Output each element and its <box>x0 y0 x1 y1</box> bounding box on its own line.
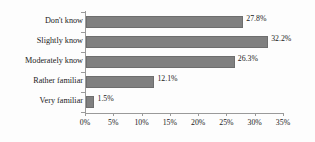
bar <box>86 76 154 88</box>
bar-value-label: 1.5% <box>97 93 113 104</box>
bar <box>86 96 94 108</box>
bar-value-label: 27.8% <box>246 13 266 24</box>
category-label: Slightly know <box>0 35 83 46</box>
x-axis-tick <box>283 113 284 116</box>
x-axis-tick <box>170 113 171 116</box>
y-axis-tick <box>81 52 85 53</box>
bar-wrapper <box>86 76 154 88</box>
bar-wrapper <box>86 96 94 108</box>
category-label: Don't know <box>0 15 83 26</box>
bar-wrapper <box>86 56 235 68</box>
x-axis-tick <box>198 113 199 116</box>
bar-row: Moderately know 26.3% <box>0 52 315 72</box>
category-label: Rather familiar <box>0 75 83 86</box>
y-axis-tick <box>81 32 85 33</box>
category-label: Moderately know <box>0 55 83 66</box>
bar-value-label: 12.1% <box>157 73 177 84</box>
bar <box>86 16 243 28</box>
bar-wrapper <box>86 36 268 48</box>
x-axis-tick-label: 35% <box>276 118 290 127</box>
x-axis-tick-label: 30% <box>248 118 262 127</box>
x-axis-tick-label: 0% <box>80 118 90 127</box>
x-axis-tick <box>226 113 227 116</box>
bar-value-label: 26.3% <box>238 53 258 64</box>
y-axis-tick <box>81 12 85 13</box>
bar-value-label: 32.2% <box>271 33 291 44</box>
category-rows: Don't know 27.8% Slightly know 32.2% Mod… <box>0 12 315 112</box>
y-axis-tick <box>81 92 85 93</box>
x-axis-tick <box>142 113 143 116</box>
bar-chart: Don't know 27.8% Slightly know 32.2% Mod… <box>0 0 315 142</box>
bar-row: Don't know 27.8% <box>0 12 315 32</box>
bar <box>86 56 235 68</box>
x-axis-tick-label: 15% <box>163 118 177 127</box>
x-axis-tick-label: 20% <box>191 118 205 127</box>
x-axis-tick-label: 10% <box>134 118 148 127</box>
x-axis-tick <box>113 113 114 116</box>
y-axis-tick <box>81 72 85 73</box>
x-axis-ticks: 0%5%10%15%20%25%30%35% <box>85 113 283 139</box>
category-label: Very familiar <box>0 95 83 106</box>
x-axis-tick <box>85 113 86 116</box>
bar-row: Rather familiar 12.1% <box>0 72 315 92</box>
bar <box>86 36 268 48</box>
bar-row: Very familiar 1.5% <box>0 92 315 112</box>
x-axis-tick <box>255 113 256 116</box>
x-axis-tick-label: 5% <box>108 118 118 127</box>
bar-wrapper <box>86 16 243 28</box>
x-axis-tick-label: 25% <box>219 118 233 127</box>
bar-row: Slightly know 32.2% <box>0 32 315 52</box>
